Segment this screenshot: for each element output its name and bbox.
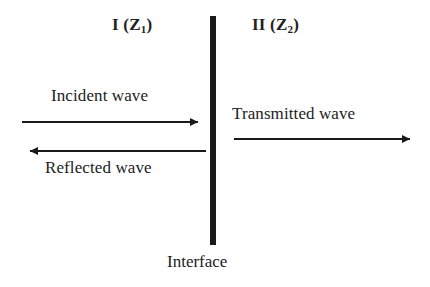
reflected-wave-label: Reflected wave <box>45 159 152 176</box>
region-2-impedance-symbol: Z <box>276 15 288 34</box>
region-1-impedance-symbol: Z <box>129 15 141 34</box>
region-1-roman: I <box>112 15 119 34</box>
region-1-impedance-index: 1 <box>141 23 147 35</box>
region-2-impedance: (Z2) <box>270 15 299 34</box>
region-2-label: II (Z2) <box>252 16 299 35</box>
region-2-roman: II <box>252 15 266 34</box>
incident-wave-label: Incident wave <box>51 87 148 104</box>
region-1-label: I (Z1) <box>112 16 152 35</box>
diagram-canvas <box>0 0 430 287</box>
region-2-impedance-index: 2 <box>288 23 294 35</box>
interface-label: Interface <box>167 253 227 270</box>
transmitted-wave-label: Transmitted wave <box>232 105 355 122</box>
region-1-impedance: (Z1) <box>123 15 152 34</box>
wave-interface-diagram: I (Z1) II (Z2) Incident wave Reflected w… <box>0 0 430 287</box>
